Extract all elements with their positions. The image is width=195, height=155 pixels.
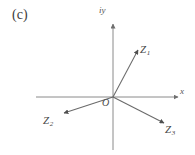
vector-z1-label: Z1 [140,44,150,55]
vector-z3 [113,97,164,123]
vector-z1-subscript: 1 [147,49,151,57]
vector-z3-label: Z3 [165,124,175,135]
vector-z2-symbol: Z [43,114,49,126]
vector-z2-label: Z2 [43,115,53,126]
figure-panel-c: (c) iy x O Z1 Z2 Z3 [0,0,195,155]
vector-z1 [113,50,138,97]
vector-z2-subscript: 2 [50,120,54,128]
vector-z3-symbol: Z [165,123,171,135]
real-axis-label: x [180,87,184,96]
imaginary-axis-label: iy [99,6,106,15]
vector-z3-subscript: 3 [172,129,176,137]
panel-label: (c) [12,8,28,22]
vector-z1-symbol: Z [140,43,146,55]
origin-label: O [102,98,109,108]
